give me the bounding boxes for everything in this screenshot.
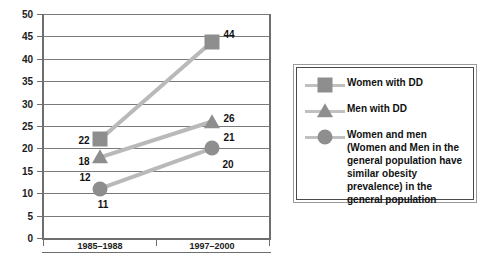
legend-key-circle [303,129,347,145]
y-axis-label-25: 25 [22,121,33,132]
series-lines [42,14,270,238]
y-axis-label-20: 20 [22,143,33,154]
triangle-marker-icon [317,103,333,117]
legend-label-women-and-men: Women and men (Women and Men in the gene… [347,128,466,206]
legend-label-men-with-dd: Men with DD [347,102,407,115]
legend-item-women-and-men[interactable]: Women and men (Women and Men in the gene… [303,128,466,206]
y-axis-label-5: 5 [27,210,33,221]
y-axis-label-35: 35 [22,76,33,87]
x-axis-bottom-rule [42,252,271,253]
marker-women-and-men-1997-2000[interactable] [205,141,220,156]
data-label-women-and-men-1997-2000-lower: 20 [222,159,233,170]
legend-item-men-with-dd[interactable]: Men with DD [303,102,466,119]
data-label-women-and-men-1997-2000-upper: 21 [223,132,234,143]
series-line-women-and-men [100,148,212,188]
y-axis-label-50: 50 [22,9,33,20]
x-axis-label-1997-2000: 1997–2000 [189,241,234,251]
x-axis-label-1985-1988: 1985–1988 [77,241,122,251]
legend-inner-box: Women with DD Men with DD Women and men … [296,67,474,200]
data-label-men-with-dd-1997-2000: 26 [223,113,234,124]
legend-key-triangle [303,103,347,119]
marker-men-with-dd-1985-1988[interactable] [92,150,108,164]
y-axis-label-0: 0 [27,233,33,244]
marker-women-with-dd-1985-1988[interactable] [93,132,108,147]
x-axis-tick-mid [156,240,157,246]
x-axis-tick-left [43,240,44,246]
circle-marker-icon [318,130,333,145]
legend-label-women-with-dd: Women with DD [347,76,423,89]
square-marker-icon [318,78,333,93]
legend-item-women-with-dd[interactable]: Women with DD [303,76,466,93]
y-axis-label-40: 40 [22,53,33,64]
marker-women-with-dd-1997-2000[interactable] [205,34,220,49]
data-label-women-with-dd-1997-2000: 44 [223,29,234,40]
legend-key-square [303,77,347,93]
marker-men-with-dd-1997-2000[interactable] [204,114,220,128]
y-axis-label-10: 10 [22,188,33,199]
y-axis-label-15: 15 [22,165,33,176]
plot-area: 50 45 40 35 30 25 20 [42,14,270,238]
data-label-women-and-men-1985-1988-upper: 12 [79,172,90,183]
marker-women-and-men-1985-1988[interactable] [93,181,108,196]
y-axis-label-45: 45 [22,31,33,42]
series-line-women-with-dd [100,42,212,140]
x-axis-tick-right [269,240,270,246]
y-axis-label-30: 30 [22,98,33,109]
data-label-women-and-men-1985-1988-lower: 11 [98,199,109,210]
chart-legend: Women with DD Men with DD Women and men … [293,64,477,203]
data-label-men-with-dd-1985-1988: 18 [78,156,89,167]
data-label-women-with-dd-1985-1988: 22 [78,135,89,146]
chart-figure: 50 45 40 35 30 25 20 [0,0,484,267]
